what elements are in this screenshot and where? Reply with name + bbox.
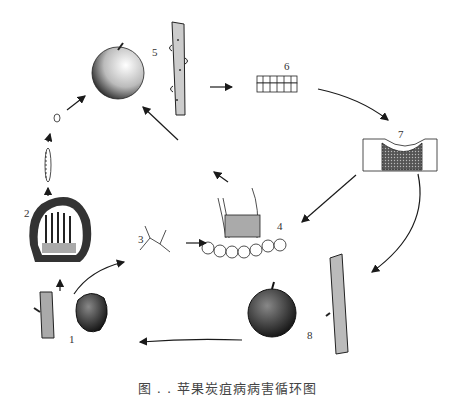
- stage-label-6: 6: [284, 60, 290, 72]
- stage-label-7: 7: [398, 128, 404, 140]
- stage-label-1: 1: [69, 333, 75, 345]
- spore-chain-illustration: [45, 114, 60, 182]
- host-tissue-illustration: [257, 76, 297, 92]
- germinating-conidia-illustration: [140, 226, 170, 252]
- twig-illustration-5: [170, 22, 188, 115]
- rotted-apple-illustration: [248, 282, 296, 337]
- twig-illustration-8: [326, 254, 348, 354]
- stage-label-4: 4: [277, 220, 283, 232]
- lesion-illustration: [363, 139, 437, 171]
- stage-label-8: 8: [307, 329, 313, 341]
- acervulus-illustration: [202, 188, 286, 258]
- stage-label-3: 3: [138, 233, 144, 245]
- healthy-apple-illustration: [92, 43, 144, 99]
- stage-label-2: 2: [24, 207, 30, 219]
- infected-twig-illustration-1: [34, 292, 54, 338]
- stage-label-5: 5: [152, 46, 158, 58]
- mummified-fruit-illustration: [76, 0, 107, 332]
- acervulus-cross-section-illustration: [29, 197, 91, 262]
- figure-caption: 图 . . 苹果炭疽病病害循环图: [0, 378, 455, 397]
